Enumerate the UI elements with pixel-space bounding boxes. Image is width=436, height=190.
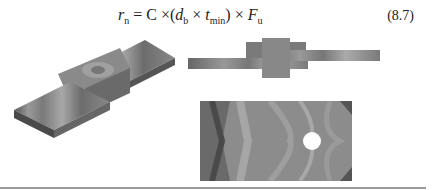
equals-sign: = <box>133 6 142 23</box>
sub-n: n <box>124 15 129 26</box>
page-rule <box>0 187 426 189</box>
times-sign: × <box>192 6 201 23</box>
sub-b: b <box>183 15 188 26</box>
close-paren: ) <box>225 6 230 23</box>
lap-joint-side-view-figure <box>186 38 386 78</box>
times-sign: × <box>235 6 244 23</box>
equation: rn = C ×(db × tmin) × Fu <box>118 6 262 26</box>
lap-joint-3d-figure <box>10 38 190 158</box>
plate-with-hole-figure <box>200 101 352 181</box>
equation-number: (8.7) <box>387 8 414 24</box>
sub-min: min <box>210 15 226 26</box>
times-sign: × <box>161 6 170 23</box>
sub-u: u <box>257 15 262 26</box>
coef-c: C <box>146 6 157 23</box>
